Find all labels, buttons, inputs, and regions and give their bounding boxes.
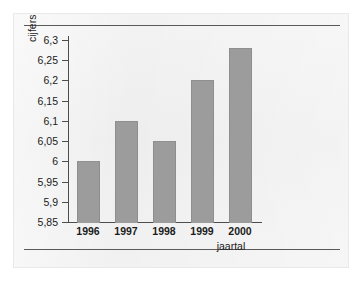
y-axis-tick-label: 5,95	[0, 176, 58, 187]
y-axis-tick	[62, 121, 68, 122]
x-axis-tick-label: 1996	[68, 226, 108, 237]
bar-1996	[77, 161, 100, 223]
y-axis-tick	[62, 60, 68, 61]
bar-2000	[229, 48, 252, 223]
y-axis-tick	[62, 161, 68, 162]
y-axis-tick	[62, 222, 68, 223]
y-axis-tick-label: 6,1	[0, 116, 58, 127]
y-axis-tick-label: 6,2	[0, 75, 58, 86]
x-axis-tick-label: 1997	[106, 226, 146, 237]
y-axis-tick-label: 6	[0, 156, 58, 167]
bar-1998	[153, 141, 176, 223]
y-axis-tick-label: 6,15	[0, 95, 58, 106]
x-axis-title: jaartal	[200, 240, 262, 252]
bar-1999	[191, 80, 214, 223]
bar-1997	[115, 121, 138, 223]
y-axis-tick	[62, 202, 68, 203]
scanned-page: 6,36,256,26,156,16,0565,955,95,85 199619…	[14, 14, 348, 267]
y-axis-tick	[62, 101, 68, 102]
y-axis-tick	[62, 40, 68, 41]
y-axis-tick	[62, 182, 68, 183]
y-axis-tick	[62, 80, 68, 81]
y-axis-tick-label: 5,9	[0, 197, 58, 208]
bar-chart: 6,36,256,26,156,16,0565,955,95,85 199619…	[14, 14, 348, 267]
y-axis-tick	[62, 141, 68, 142]
x-axis-tick-label: 1998	[144, 226, 184, 237]
y-axis-tick-label: 6,25	[0, 55, 58, 66]
x-axis-tick-label: 2000	[220, 226, 260, 237]
y-axis-line	[68, 36, 69, 223]
y-axis-title: cijfers	[26, 15, 38, 42]
y-axis-tick-label: 5,85	[0, 217, 58, 228]
y-axis-tick-label: 6,05	[0, 136, 58, 147]
x-axis-tick-label: 1999	[182, 226, 222, 237]
